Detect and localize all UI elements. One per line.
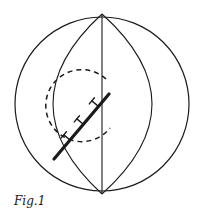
- sphere-diagram: [0, 0, 200, 200]
- figure-caption: Fig.1: [14, 194, 45, 208]
- lens-right-arc: [102, 14, 152, 194]
- slip-line-thick: [54, 94, 109, 159]
